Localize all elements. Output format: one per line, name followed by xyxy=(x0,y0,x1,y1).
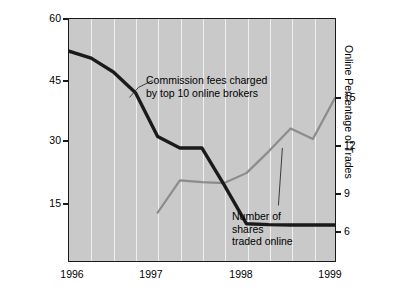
x-axis-tick-label: 1998 xyxy=(219,268,263,280)
y-axis-right-tick-label: 9 xyxy=(344,187,372,199)
y-axis-right-tickmark xyxy=(336,97,341,99)
chart-figure: For Commission Fees ($) Online Percentag… xyxy=(0,0,397,301)
y-axis-left-tick-label: 45 xyxy=(33,74,61,86)
y-axis-left-tick-label: 15 xyxy=(33,197,61,209)
y-axis-left-tick-label: 60 xyxy=(33,12,61,24)
x-axis-tick-label: 1999 xyxy=(308,268,352,280)
y-axis-left-tick-label: 30 xyxy=(33,134,61,146)
y-axis-right-tick-label: 12 xyxy=(344,139,372,151)
shares-traded-annotation: Number of shares traded online xyxy=(232,210,293,248)
data-layer xyxy=(69,19,335,261)
x-axis-tick-label: 1997 xyxy=(129,268,173,280)
y-axis-right-tick-label: 15 xyxy=(344,91,372,103)
y-axis-right-title: Online Percentage of Trades xyxy=(343,45,355,179)
online-percentage-line xyxy=(158,98,335,213)
x-axis-tick-label: 1996 xyxy=(50,268,94,280)
y-axis-right-tickmark xyxy=(336,231,341,233)
y-axis-right-tick-label: 6 xyxy=(344,225,372,237)
commission-fees-annotation: Commission fees charged by top 10 online… xyxy=(146,74,267,99)
shares-traded-leader-line xyxy=(278,148,282,206)
plot-area xyxy=(68,18,336,262)
y-axis-right-tickmark xyxy=(336,193,341,195)
y-axis-right-tickmark xyxy=(336,145,341,147)
